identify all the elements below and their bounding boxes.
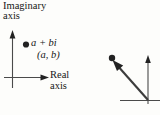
real-axis-label: Real axis	[50, 70, 69, 91]
complex-point-dot	[23, 41, 29, 47]
imaginary-axis-arrowhead	[10, 30, 16, 39]
vector-shaft	[117, 65, 149, 101]
real-axis-arrowhead	[41, 75, 50, 81]
imaginary-axis-label: Imaginary axis	[3, 1, 46, 21]
complex-point-label: a + bi	[31, 38, 57, 49]
real-axis-label-line1: Real	[50, 69, 69, 80]
vector-point-dot	[109, 55, 115, 61]
complex-vector-figure: Imaginary axis a + bi (a, b) Real axis a…	[0, 0, 160, 115]
real-axis-label-line2: axis	[50, 81, 69, 92]
y-axis-arrowhead	[145, 55, 151, 63]
vector-plane-axes	[82, 0, 160, 115]
imaginary-axis-label-line2: axis	[3, 11, 46, 22]
complex-plane-panel: Imaginary axis a + bi (a, b) Real axis	[0, 0, 82, 115]
vector-plane-panel: a + bi ai + bj (a, b) y	[82, 0, 160, 115]
complex-coordinate-label: (a, b)	[37, 50, 60, 61]
